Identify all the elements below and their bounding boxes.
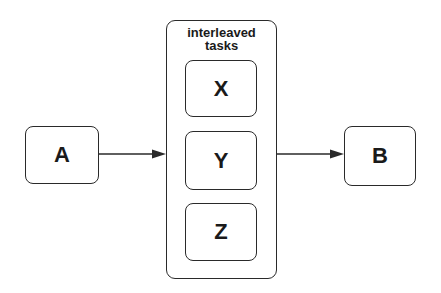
edges-layer <box>0 0 441 293</box>
arrow-group-to-b <box>277 150 344 159</box>
arrow-a-to-group <box>99 150 166 159</box>
